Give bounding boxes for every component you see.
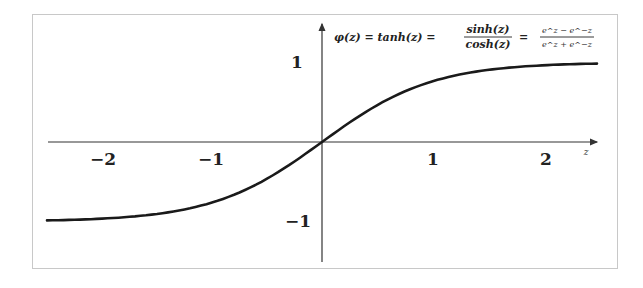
x-tick-label-neg1: −1: [198, 149, 224, 169]
y-tick-label-neg1: −1: [285, 211, 311, 231]
x-tick-label-1: 1: [427, 149, 439, 169]
formula-frac1-den: cosh(z): [466, 38, 511, 51]
x-axis-label: z: [583, 147, 589, 157]
formula-eq: =: [519, 31, 528, 44]
tanh-chart: −2 −1 1 2 z 1 −1 φ(z) = tanh(z) = sinh(z…: [0, 0, 643, 288]
formula-frac2-den: e^z + e^−z: [542, 40, 593, 49]
formula-frac1-num: sinh(z): [466, 23, 509, 36]
formula-lhs: φ(z) = tanh(z) =: [334, 31, 435, 44]
x-tick-label-2: 2: [540, 149, 552, 169]
y-tick-label-1: 1: [291, 52, 303, 72]
x-tick-label-neg2: −2: [90, 149, 116, 169]
formula: φ(z) = tanh(z) = sinh(z) cosh(z) = e^z −…: [334, 23, 594, 51]
formula-frac2-num: e^z − e^−z: [542, 26, 593, 35]
